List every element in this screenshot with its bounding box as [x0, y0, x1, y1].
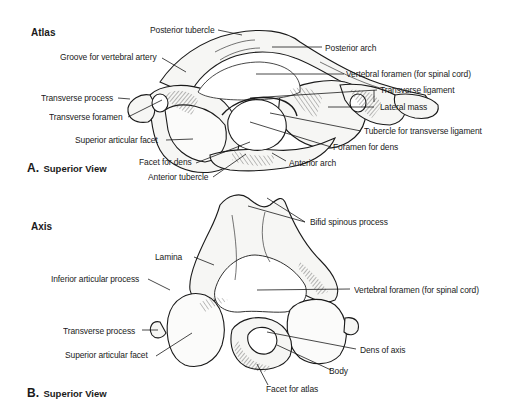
label-facet-for-dens: Facet for dens	[139, 156, 192, 167]
label-lateral-mass: Lateral mass	[380, 101, 427, 112]
panel-b-view-caption: B. Superior View	[27, 383, 107, 401]
panel-a-title: Atlas	[31, 27, 55, 38]
label-posterior-tubercle: Posterior tubercle	[150, 24, 215, 35]
label-inferior-articular-process: Inferior articular process	[51, 273, 139, 284]
panel-a-view-text: Superior View	[43, 163, 106, 174]
label-anterior-arch: Anterior arch	[289, 157, 336, 168]
label-superior-articular-facet-a: Superior articular facet	[75, 134, 158, 145]
label-transverse-foramen: Transverse foramen	[49, 111, 123, 122]
label-foramen-for-dens: Foramen for dens	[333, 141, 398, 152]
panel-a-view-caption: A. Superior View	[27, 158, 107, 176]
panel-b-view-text: Superior View	[43, 388, 106, 399]
label-facet-for-atlas: Facet for atlas	[266, 383, 318, 394]
label-bifid-spinous-process: Bifid spinous process	[310, 216, 388, 227]
panel-a-letter: A.	[27, 161, 39, 175]
label-transverse-process-b: Transverse process	[63, 325, 135, 336]
label-vertebral-foramen-a: Vertebral foramen (for spinal cord)	[346, 68, 471, 79]
label-groove-vertebral-artery: Groove for vertebral artery	[60, 51, 157, 62]
panel-b-title: Axis	[31, 221, 52, 232]
label-anterior-tubercle: Anterior tubercle	[148, 171, 208, 182]
label-dens-of-axis: Dens of axis	[360, 344, 405, 355]
label-body: Body	[329, 365, 348, 376]
panel-b-letter: B.	[27, 386, 39, 400]
label-superior-articular-facet-b: Superior articular facet	[65, 349, 148, 360]
label-transverse-ligament: Transverse ligament	[380, 84, 454, 95]
label-transverse-process-a: Transverse process	[41, 92, 113, 103]
label-lamina: Lamina	[155, 251, 182, 262]
label-posterior-arch: Posterior arch	[325, 42, 376, 53]
label-vertebral-foramen-b: Vertebral foramen (for spinal cord)	[354, 284, 479, 295]
label-tubercle-transverse-ligament: Tubercle for transverse ligament	[364, 125, 482, 136]
